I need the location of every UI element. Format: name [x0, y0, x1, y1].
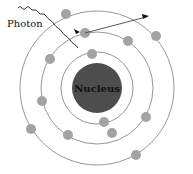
electron [61, 9, 71, 19]
photon-label: Photon [7, 18, 43, 29]
ejected-electron-arrow [85, 17, 146, 33]
nucleus-label: Nucleus [74, 83, 120, 94]
electron [99, 117, 109, 127]
atom-diagram: Photon Nucleus [0, 0, 193, 174]
electron [151, 31, 161, 41]
electron [26, 124, 36, 134]
electron [141, 112, 151, 122]
electron [63, 130, 73, 140]
ejected-arrowhead-icon [142, 14, 149, 19]
electron [87, 49, 97, 59]
electron [123, 36, 133, 46]
electron [131, 150, 141, 160]
electron [37, 96, 47, 106]
photon-arrowhead-icon [74, 29, 80, 34]
electron [107, 128, 117, 138]
electron [45, 54, 55, 64]
